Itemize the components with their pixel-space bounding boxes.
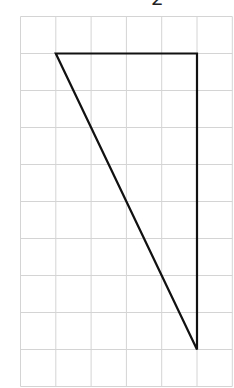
grid-diagram (0, 0, 234, 388)
